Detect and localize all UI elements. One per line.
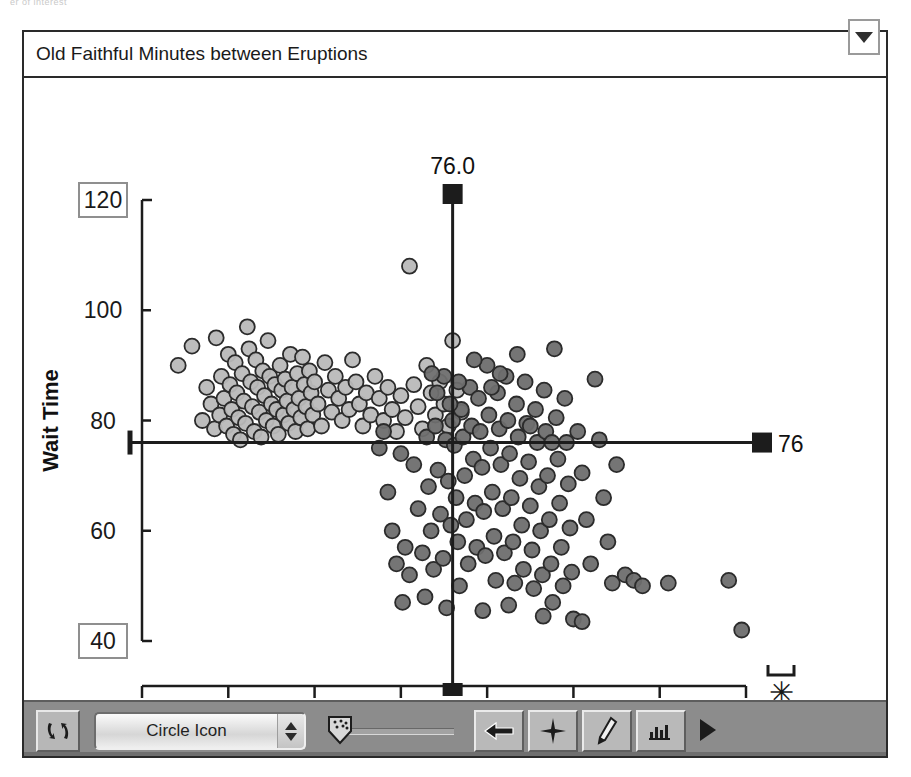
data-point[interactable]: [473, 424, 488, 439]
dotted-shield-icon[interactable]: [324, 715, 356, 745]
data-point[interactable]: [443, 397, 458, 412]
data-point[interactable]: [514, 518, 529, 533]
data-point[interactable]: [307, 374, 322, 389]
data-point[interactable]: [233, 432, 248, 447]
data-point[interactable]: [561, 476, 576, 491]
data-point[interactable]: [500, 413, 515, 428]
data-point[interactable]: [406, 457, 421, 472]
data-point[interactable]: [536, 609, 551, 624]
data-point[interactable]: [428, 419, 443, 434]
data-point[interactable]: [545, 595, 560, 610]
data-point[interactable]: [411, 399, 426, 414]
data-point[interactable]: [376, 424, 391, 439]
data-point[interactable]: [418, 589, 433, 604]
crosshair-h-handle-right[interactable]: [752, 433, 772, 453]
ruler-histogram-icon[interactable]: [636, 710, 686, 752]
data-point[interactable]: [467, 352, 482, 367]
pencil-icon[interactable]: [582, 710, 632, 752]
data-point[interactable]: [185, 339, 200, 354]
data-point[interactable]: [550, 452, 565, 467]
data-point[interactable]: [261, 333, 276, 348]
data-point[interactable]: [542, 512, 557, 527]
data-point[interactable]: [314, 419, 329, 434]
data-point[interactable]: [526, 581, 541, 596]
data-point[interactable]: [554, 540, 569, 555]
data-point[interactable]: [317, 355, 332, 370]
data-point[interactable]: [478, 548, 493, 563]
data-point[interactable]: [518, 374, 533, 389]
data-point[interactable]: [588, 372, 603, 387]
data-point[interactable]: [475, 603, 490, 618]
data-point[interactable]: [475, 460, 490, 475]
data-point[interactable]: [368, 369, 383, 384]
data-point[interactable]: [300, 421, 315, 436]
data-point[interactable]: [501, 598, 516, 613]
data-point[interactable]: [563, 521, 578, 536]
marker-shape-select[interactable]: Circle Icon: [94, 712, 306, 750]
data-point[interactable]: [311, 397, 326, 412]
data-point[interactable]: [430, 385, 445, 400]
play-triangle-icon[interactable]: [696, 718, 720, 742]
data-point[interactable]: [171, 358, 186, 373]
data-point[interactable]: [493, 366, 508, 381]
data-point[interactable]: [596, 490, 611, 505]
data-point[interactable]: [556, 578, 571, 593]
data-point[interactable]: [436, 551, 451, 566]
data-point[interactable]: [579, 512, 594, 527]
point-density-slider[interactable]: [324, 716, 454, 746]
data-point[interactable]: [393, 388, 408, 403]
data-point[interactable]: [402, 259, 417, 274]
data-point[interactable]: [635, 578, 650, 593]
data-point[interactable]: [609, 457, 624, 472]
data-point[interactable]: [461, 556, 476, 571]
data-point[interactable]: [510, 347, 525, 362]
data-point[interactable]: [452, 578, 467, 593]
data-point[interactable]: [502, 446, 517, 461]
data-point[interactable]: [512, 471, 527, 486]
data-point[interactable]: [504, 490, 519, 505]
data-point[interactable]: [509, 397, 524, 412]
data-point[interactable]: [523, 498, 538, 513]
data-point[interactable]: [424, 523, 439, 538]
data-point[interactable]: [402, 567, 417, 582]
left-arrow-icon[interactable]: [474, 710, 524, 752]
data-point[interactable]: [240, 319, 255, 334]
data-point[interactable]: [389, 556, 404, 571]
outlier-asterisk[interactable]: ✳: [769, 676, 794, 702]
data-point[interactable]: [421, 479, 436, 494]
data-point[interactable]: [471, 391, 486, 406]
scatter-plot-svg[interactable]: 406080100120405060708090100110PrevTimeWa…: [24, 78, 886, 702]
data-point[interactable]: [528, 402, 543, 417]
marker-shape-stepper[interactable]: [277, 714, 304, 748]
scatter-plot-canvas[interactable]: 406080100120405060708090100110PrevTimeWa…: [24, 78, 886, 702]
data-point[interactable]: [544, 556, 559, 571]
data-point[interactable]: [481, 408, 496, 423]
data-point[interactable]: [507, 576, 522, 591]
data-point[interactable]: [449, 490, 464, 505]
crosshair-v-handle-top[interactable]: [443, 184, 463, 204]
data-point[interactable]: [516, 562, 531, 577]
data-point[interactable]: [393, 446, 408, 461]
triangle-down-icon[interactable]: [285, 733, 297, 741]
data-point[interactable]: [406, 377, 421, 392]
data-point[interactable]: [540, 468, 555, 483]
data-point[interactable]: [385, 523, 400, 538]
data-point[interactable]: [506, 534, 521, 549]
data-point[interactable]: [600, 534, 615, 549]
data-point[interactable]: [395, 595, 410, 610]
data-point[interactable]: [552, 496, 567, 511]
data-point[interactable]: [487, 529, 502, 544]
data-point[interactable]: [424, 366, 439, 381]
data-point[interactable]: [557, 391, 572, 406]
data-point[interactable]: [484, 380, 499, 395]
data-point[interactable]: [564, 565, 579, 580]
triangle-up-icon[interactable]: [285, 722, 297, 730]
data-point[interactable]: [523, 419, 538, 434]
data-point[interactable]: [411, 501, 426, 516]
crosshair-star-icon[interactable]: [528, 710, 578, 752]
data-point[interactable]: [575, 614, 590, 629]
data-point[interactable]: [661, 576, 676, 591]
crosshair-v-handle-bottom[interactable]: [443, 683, 463, 696]
data-point[interactable]: [734, 623, 749, 638]
data-point[interactable]: [415, 545, 430, 560]
